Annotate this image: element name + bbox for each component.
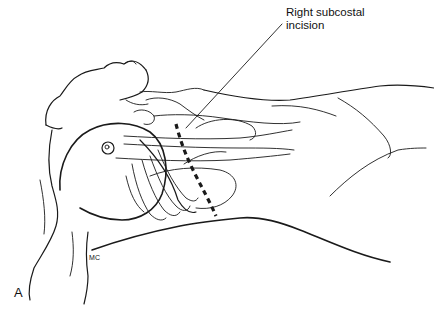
incision-callout-label: Right subcostal incision: [286, 6, 396, 32]
artist-initials: MC: [89, 254, 100, 261]
head-outline: [46, 61, 204, 129]
callout-leader-line: [186, 24, 282, 128]
costal-margin-bands: [116, 130, 294, 161]
rib-cage: [126, 119, 256, 220]
surgical-illustration: [0, 0, 434, 313]
incision-dashed-line: [176, 124, 216, 216]
panel-letter: A: [14, 285, 23, 300]
torso-outline: [29, 130, 426, 304]
callout-line-1: Right subcostal: [286, 6, 396, 19]
breast-outline: [60, 123, 166, 220]
callout-line-2: incision: [286, 19, 396, 32]
